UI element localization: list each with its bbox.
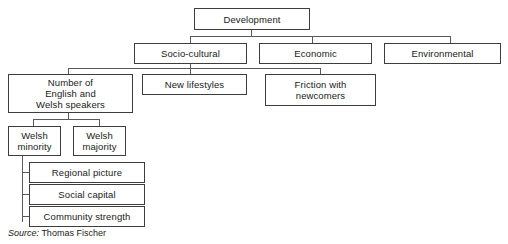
node-socio-cultural[interactable]: Socio-cultural xyxy=(134,43,247,64)
node-development-label: Development xyxy=(197,14,307,25)
node-regional-picture-label: Regional picture xyxy=(32,167,142,178)
node-welsh-minority-line2: minority xyxy=(17,141,51,152)
node-regional-picture[interactable]: Regional picture xyxy=(29,162,145,183)
node-welsh-minority[interactable]: Welsh minority xyxy=(8,126,61,156)
node-development[interactable]: Development xyxy=(194,8,310,30)
node-welsh-majority-line2: majority xyxy=(82,141,116,152)
node-economic[interactable]: Economic xyxy=(259,43,372,64)
node-welsh-majority-line1: Welsh xyxy=(86,130,113,141)
node-socio-cultural-label: Socio-cultural xyxy=(137,48,244,59)
node-friction-newcomers-line2: newcomers xyxy=(296,90,345,101)
connector-speakers-bus xyxy=(33,119,100,120)
node-community-strength[interactable]: Community strength xyxy=(29,206,145,227)
connector-to-welsh-minority xyxy=(33,119,34,126)
source-note-value: Thomas Fischer xyxy=(41,228,106,238)
node-social-capital-label: Social capital xyxy=(32,189,142,200)
node-environmental[interactable]: Environmental xyxy=(384,43,501,64)
connector-socio-cultural-bus xyxy=(68,68,321,69)
node-new-lifestyles[interactable]: New lifestyles xyxy=(142,74,247,95)
diagram-canvas: Development Socio-cultural Economic Envi… xyxy=(0,0,508,244)
source-note-label: Source: xyxy=(8,228,39,238)
node-friction-newcomers[interactable]: Friction with newcomers xyxy=(265,74,376,106)
node-number-of-speakers-line2: English and xyxy=(45,88,96,99)
node-friction-newcomers-label: Friction with newcomers xyxy=(268,79,373,101)
node-community-strength-label: Community strength xyxy=(32,211,142,222)
node-number-of-speakers-line1: Number of xyxy=(48,77,93,88)
node-social-capital[interactable]: Social capital xyxy=(29,184,145,205)
node-economic-label: Economic xyxy=(262,48,369,59)
node-welsh-majority-label: Welsh majority xyxy=(76,130,123,152)
connector-to-welsh-majority xyxy=(99,119,100,126)
node-welsh-minority-line1: Welsh xyxy=(21,130,48,141)
connector-welsh-minority-rail xyxy=(22,156,23,222)
source-note: Source: Thomas Fischer xyxy=(8,228,106,238)
node-environmental-label: Environmental xyxy=(387,48,498,59)
node-welsh-minority-label: Welsh minority xyxy=(11,130,58,152)
node-welsh-majority[interactable]: Welsh majority xyxy=(73,126,126,156)
node-number-of-speakers-line3: Welsh speakers xyxy=(36,99,105,110)
node-number-of-speakers[interactable]: Number of English and Welsh speakers xyxy=(8,74,133,113)
node-number-of-speakers-label: Number of English and Welsh speakers xyxy=(11,77,130,110)
node-friction-newcomers-line1: Friction with xyxy=(295,79,347,90)
connector-development-bus xyxy=(190,36,450,37)
node-new-lifestyles-label: New lifestyles xyxy=(145,79,244,90)
